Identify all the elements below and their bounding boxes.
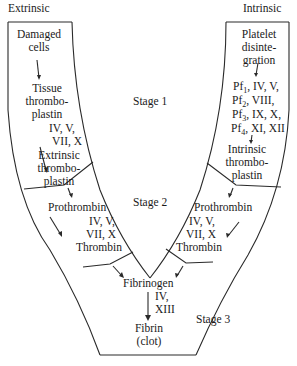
extrinsic-thromboplastin-node: Extrinsic thrombo- plastin [28,149,90,188]
intrinsic-stage2-factors: IV, V, VII, X [186,215,216,241]
clot-label: (clot) [124,335,174,348]
arrow-prothrombin-to-thrombin-left [50,217,61,235]
extrinsic-stage2-divider [83,252,133,267]
ext-s2-factors-line2: VII, X [86,228,116,241]
platelet-factors: Pf1, IV, V, Pf2, VIII, Pf3, IX, X, Pf4, … [233,79,285,135]
fibrinogen-factors: IV, XIII [155,290,175,316]
int-s2-factors-line1: IV, V, [189,215,216,228]
fibrin-factors-line1: IV, [155,290,175,303]
ext-s2-factors-line1: IV, V, [89,215,116,228]
tissue-line1: Tissue [18,82,76,95]
ext-thrombo-line2: thrombo- [28,162,90,175]
platelet-line3: gration [230,54,288,67]
pf3-row: Pf3, IX, X, [232,107,285,121]
extrinsic-stage1-factors: IV, V, VII, X [49,122,82,148]
platelet-line1: Platelet [230,28,288,41]
int-thrombo-line1: Intrinsic [217,143,277,156]
pf2-row: Pf2, VIII, [232,93,285,107]
stage1-label: Stage 1 [133,95,167,108]
intrinsic-header: Intrinsic [243,2,281,15]
int-s2-factors-line2: VII, X [186,228,216,241]
damaged-cells-node: Damaged cells [10,28,68,54]
tissue-line2: thrombo- [18,95,76,108]
extrinsic-stage2-factors: IV, V, VII, X [89,215,116,241]
int-thrombo-line2: thrombo- [217,156,277,169]
extrinsic-outer-edge [8,22,100,355]
fibrinogen-node: Fibrinogen [123,277,173,290]
stage3-label: Stage 3 [196,313,230,326]
extrinsic-thrombin-node: Thrombin [76,241,122,254]
intrinsic-outer-edge [196,22,289,355]
fibrin-factors-line2: XIII [155,303,175,316]
pf1-row: Pf1, IV, V, [233,79,285,93]
ext-factors-line2: VII, X [49,135,82,148]
ext-thrombo-line3: plastin [28,175,90,188]
platelet-disintegration-node: Platelet disinte- gration [230,28,288,67]
stage2-label: Stage 2 [133,196,167,209]
tissue-thromboplastin-node: Tissue thrombo- plastin [18,82,76,121]
platelet-line2: disinte- [230,41,288,54]
pf4-row: Pf4, XI, XII [231,121,285,135]
damaged-cells-line1: Damaged [10,28,68,41]
extrinsic-header: Extrinsic [8,2,50,15]
fibrin-clot-node: Fibrin (clot) [124,322,174,348]
extrinsic-prothrombin-node: Prothrombin [48,201,106,214]
int-thrombo-line3: plastin [217,169,277,182]
ext-thrombo-line1: Extrinsic [28,149,90,162]
intrinsic-thrombin-node: Thrombin [176,241,222,254]
arrow-prothrombin-to-thrombin-right [228,222,239,236]
intrinsic-prothrombin-node: Prothrombin [194,201,252,214]
tissue-line3: plastin [18,108,76,121]
fibrin-label: Fibrin [124,322,174,335]
damaged-cells-line2: cells [10,41,68,54]
ext-factors-line1: IV, V, [49,122,82,135]
intrinsic-thromboplastin-node: Intrinsic thrombo- plastin [217,143,277,182]
